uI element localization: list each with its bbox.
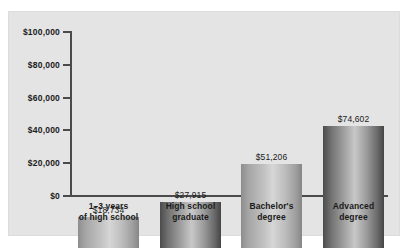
x-category-label-3-line-1: Advanced bbox=[323, 201, 384, 212]
x-category-label-3-line-2: degree bbox=[323, 212, 384, 223]
x-category-label-2: Bachelor's degree bbox=[241, 201, 302, 223]
y-axis-line bbox=[70, 31, 72, 197]
bar-advanced-degree[interactable] bbox=[323, 126, 384, 248]
x-category-label-2-line-1: Bachelor's bbox=[241, 201, 302, 212]
y-tick-label-0: $0 bbox=[0, 191, 60, 201]
bar-value-label-1: $27,915 bbox=[175, 190, 206, 200]
y-tick-80000 bbox=[63, 64, 71, 66]
y-tick-label-100000: $100,000 bbox=[0, 27, 60, 37]
bar-group-2: $51,206 bbox=[241, 84, 302, 248]
y-tick-label-60000: $60,000 bbox=[0, 93, 60, 103]
y-tick-label-80000: $80,000 bbox=[0, 60, 60, 70]
bar-group-1: $27,915 bbox=[160, 84, 221, 248]
x-category-label-1-line-2: graduate bbox=[160, 212, 221, 223]
bar-group-0: $18,734 bbox=[78, 84, 139, 248]
x-category-label-0: 1–3 years of high school bbox=[78, 201, 139, 223]
x-category-label-0-line-1: 1–3 years bbox=[78, 201, 139, 212]
x-category-label-3: Advanced degree bbox=[323, 201, 384, 223]
x-category-label-0-line-2: of high school bbox=[78, 212, 139, 223]
y-tick-60000 bbox=[63, 97, 71, 99]
x-category-label-1-line-1: High school bbox=[160, 201, 221, 212]
plot-area: $0 $20,000 $40,000 $60,000 $80,000 $100,… bbox=[0, 0, 409, 248]
y-tick-20000 bbox=[63, 162, 71, 164]
bar-group-3: $74,602 bbox=[323, 84, 384, 248]
chart-figure: $0 $20,000 $40,000 $60,000 $80,000 $100,… bbox=[0, 0, 409, 248]
y-tick-0 bbox=[63, 195, 71, 197]
y-tick-100000 bbox=[63, 31, 71, 33]
x-category-label-2-line-2: degree bbox=[241, 212, 302, 223]
bar-value-label-2: $51,206 bbox=[256, 152, 287, 162]
bar-value-label-3: $74,602 bbox=[338, 114, 369, 124]
y-tick-label-40000: $40,000 bbox=[0, 125, 60, 135]
y-axis-tick-labels: $0 $20,000 $40,000 $60,000 $80,000 $100,… bbox=[0, 0, 60, 248]
y-tick-label-20000: $20,000 bbox=[0, 158, 60, 168]
x-category-label-1: High school graduate bbox=[160, 201, 221, 223]
y-tick-40000 bbox=[63, 129, 71, 131]
